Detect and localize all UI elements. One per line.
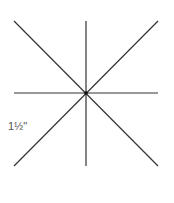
line-diagram xyxy=(0,0,174,203)
measurement-label: 1½" xyxy=(8,120,27,132)
center-point xyxy=(84,91,88,95)
